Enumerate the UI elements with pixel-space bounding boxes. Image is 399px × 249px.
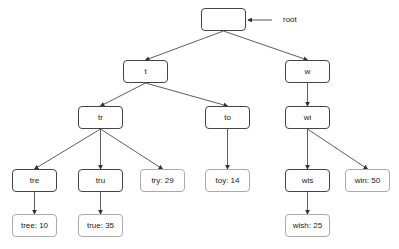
node-t: t [123,60,168,83]
node-tru: tru [78,169,123,192]
node-true: true: 35 [78,214,123,237]
root-label: root [283,15,297,24]
node-toy: toy: 14 [205,169,250,192]
edges-layer [0,0,399,249]
edge-t-to [146,83,228,106]
node-to: to [205,106,250,129]
node-win: win: 50 [345,169,390,192]
edge-t-tr [101,83,146,106]
edge-root-w [224,31,308,60]
edge-tr-tre [35,129,101,169]
edge-tr-try [101,129,163,169]
node-tre: tre [12,169,57,192]
edge-root-t [146,31,224,60]
node-w: w [285,60,330,83]
node-wish: wish: 25 [285,214,330,237]
node-tree: tree: 10 [12,214,57,237]
node-wi: wi [285,106,330,129]
node-tr: tr [78,106,123,129]
node-try: try: 29 [140,169,185,192]
node-root [201,8,246,31]
node-wis: wis [285,169,330,192]
edge-wi-win [308,129,368,169]
